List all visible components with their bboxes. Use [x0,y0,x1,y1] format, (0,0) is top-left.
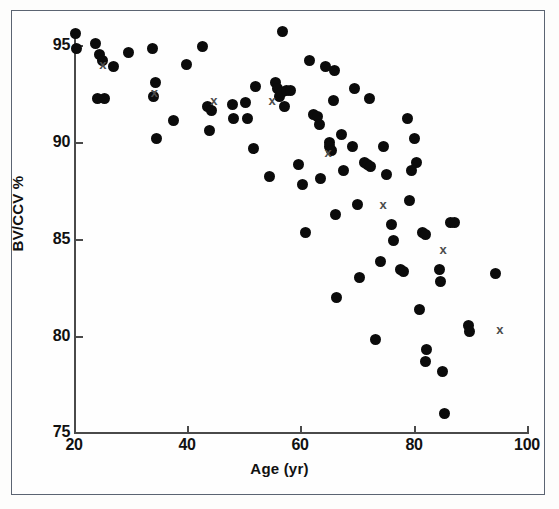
data-point-circle [439,408,450,419]
data-point-circle [300,227,311,238]
data-point-circle [435,276,446,287]
x-tick-label-40: 40 [165,436,209,454]
data-point-circle [228,113,239,124]
data-point-circle [349,83,360,94]
plot-area: xxxxxxxx [74,35,527,433]
data-point-circle [204,125,215,136]
x-axis-title: Age (yr) [0,460,559,477]
data-point-circle [338,165,349,176]
data-point-cross: x [148,86,161,99]
data-point-circle [314,119,325,130]
data-point-circle [293,159,304,170]
data-point-circle [242,113,253,124]
data-point-circle [297,179,308,190]
data-point-cross: x [266,94,279,107]
data-point-circle [279,101,290,112]
data-point-circle [168,115,179,126]
data-point-circle [388,235,399,246]
data-point-circle [421,344,432,355]
data-point-circle [71,43,82,54]
data-point-circle [304,55,315,66]
data-point-cross: x [377,198,390,211]
data-point-circle [277,26,288,37]
data-point-circle [331,292,342,303]
data-point-circle [347,141,358,152]
figure-container: 95 90 85 80 75 20 40 60 80 100 BV/CCV % … [0,0,559,509]
data-point-circle [375,256,386,267]
y-tick-label-80: 80 [30,327,70,345]
data-point-circle [250,81,261,92]
data-point-cross: x [322,146,335,159]
data-point-circle [414,304,425,315]
data-point-circle [181,59,192,70]
y-axis-title: BV/CCV % [9,134,26,294]
data-point-circle [336,129,347,140]
data-point-circle [449,217,460,228]
data-point-circle [90,38,101,49]
x-tick-100 [527,426,529,433]
data-point-circle [420,229,431,240]
data-point-circle [240,97,251,108]
x-tick-label-60: 60 [278,436,322,454]
data-point-circle [264,171,275,182]
y-tick-label-90: 90 [30,133,70,151]
data-point-cross: x [437,243,450,256]
data-point-circle [248,143,259,154]
data-point-circle [490,268,501,279]
data-point-circle [378,141,389,152]
data-point-circle [365,161,376,172]
data-point-circle [404,195,415,206]
data-point-cross: x [493,323,506,336]
data-point-circle [147,43,158,54]
data-point-circle [386,219,397,230]
data-point-circle [409,133,420,144]
data-point-circle [330,209,341,220]
data-point-circle [437,366,448,377]
data-point-circle [70,28,81,39]
data-point-circle [364,93,375,104]
data-point-circle [285,85,296,96]
data-point-circle [370,334,381,345]
data-point-circle [398,266,409,277]
data-point-circle [411,157,422,168]
x-tick-label-100: 100 [505,436,549,454]
data-point-circle [123,47,134,58]
data-point-circle [99,93,110,104]
data-point-circle [354,272,365,283]
data-point-cross: x [207,94,220,107]
y-tick-label-95: 95 [30,36,70,54]
data-point-cross: x [96,58,109,71]
data-point-circle [381,169,392,180]
data-point-circle [402,113,413,124]
data-point-circle [464,326,475,337]
data-point-circle [151,133,162,144]
data-point-circle [315,173,326,184]
data-point-circle [420,356,431,367]
data-point-circle [328,95,339,106]
data-point-circle [329,65,340,76]
data-point-circle [197,41,208,52]
data-point-circle [434,264,445,275]
data-point-circle [352,199,363,210]
y-tick-label-85: 85 [30,230,70,248]
x-tick-label-80: 80 [392,436,436,454]
data-point-circle [227,99,238,110]
x-tick-label-20: 20 [52,436,96,454]
